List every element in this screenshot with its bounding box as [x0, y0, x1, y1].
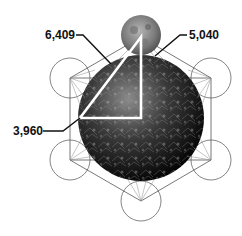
- label-5040: 5,040: [189, 29, 219, 41]
- leader-line-6409: [76, 35, 111, 64]
- label-3960: 3,960: [13, 125, 43, 137]
- label-6409: 6,409: [45, 29, 75, 41]
- leader-line-3960: [43, 118, 80, 131]
